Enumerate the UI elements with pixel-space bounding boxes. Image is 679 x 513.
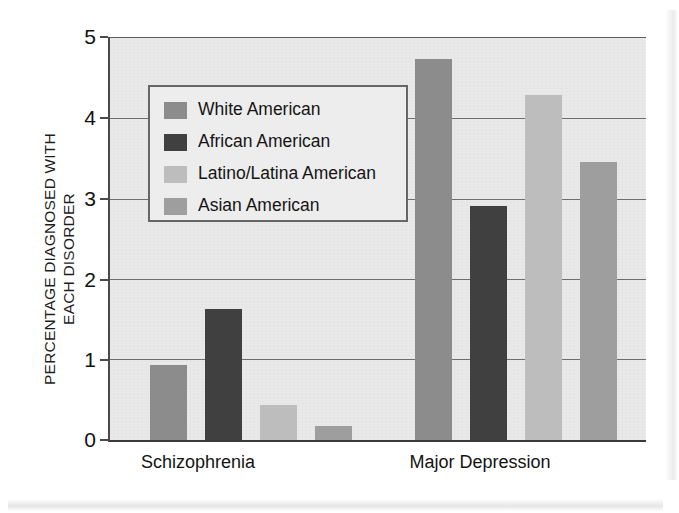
legend-item-white-american: White American	[164, 95, 406, 125]
legend-label-latino-latina-american: Latino/Latina American	[198, 165, 376, 183]
bar-schizophrenia-latino-latina-american	[260, 405, 297, 440]
legend-item-african-american: African American	[164, 127, 406, 157]
bar-schizophrenia-white-american	[150, 365, 187, 440]
y-tick-label-3: 3	[66, 188, 96, 209]
y-tick-label-2: 2	[66, 269, 96, 290]
bar-chart-figure: PERCENTAGE DIAGNOSED WITH EACH DISORDER …	[0, 0, 679, 513]
page-edge-shadow-bottom	[8, 499, 663, 511]
y-tick-mark-0	[100, 439, 108, 441]
y-tick-mark-4	[100, 117, 108, 119]
gridline-5	[110, 37, 646, 38]
y-tick-mark-2	[100, 279, 108, 281]
y-tick-label-0: 0	[66, 429, 96, 450]
y-axis-title-line-2: EACH DISORDER	[59, 133, 78, 385]
y-axis-title-line-1: PERCENTAGE DIAGNOSED WITH	[40, 133, 59, 385]
x-tick-label-major-depression: Major Depression	[380, 452, 580, 473]
legend-swatch-asian-american	[164, 198, 187, 215]
bar-major-depression-african-american	[470, 206, 507, 440]
legend-swatch-white-american	[164, 102, 187, 119]
gridline-2	[110, 279, 646, 280]
x-tick-label-schizophrenia: Schizophrenia	[113, 452, 283, 473]
bar-schizophrenia-asian-american	[315, 426, 352, 440]
page-edge-shadow-right	[665, 10, 678, 480]
legend-item-asian-american: Asian American	[164, 191, 406, 221]
bar-schizophrenia-african-american	[205, 309, 242, 440]
gridline-1	[110, 359, 646, 360]
legend: White American African American Latino/L…	[148, 85, 408, 222]
bar-major-depression-latino-latina-american	[525, 95, 562, 440]
legend-swatch-african-american	[164, 134, 187, 151]
legend-label-white-american: White American	[198, 101, 321, 119]
legend-label-asian-american: Asian American	[198, 197, 320, 215]
y-tick-label-4: 4	[66, 107, 96, 128]
legend-item-latino-latina-american: Latino/Latina American	[164, 159, 406, 189]
bar-major-depression-white-american	[415, 59, 452, 440]
legend-swatch-latino-latina-american	[164, 166, 187, 183]
y-tick-mark-5	[100, 36, 108, 38]
y-tick-mark-3	[100, 198, 108, 200]
y-tick-label-5: 5	[66, 26, 96, 47]
y-tick-mark-1	[100, 359, 108, 361]
legend-label-african-american: African American	[198, 133, 330, 151]
y-tick-label-1: 1	[66, 349, 96, 370]
bar-major-depression-asian-american	[580, 162, 617, 440]
